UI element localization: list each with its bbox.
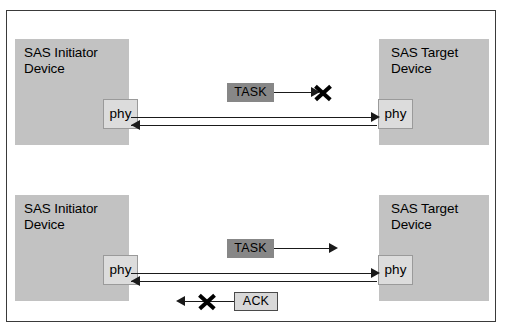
target-phy-bottom: phy [378, 255, 413, 285]
figure-canvas: SAS Initiator Device phy SAS Target Devi… [0, 0, 506, 334]
sas-target-device-label: SAS Target Device [391, 45, 458, 77]
link-line-right-top [131, 117, 377, 118]
link-arrowhead-right-bottom [371, 268, 380, 278]
link-arrowhead-left-top [131, 120, 140, 130]
blocked-x-icon-bottom [197, 291, 217, 311]
sas-initiator-device-top: SAS Initiator Device [15, 39, 129, 145]
sas-target-device-label: SAS Target Device [391, 201, 458, 233]
task-arrow-line-bottom [274, 248, 334, 249]
caption-remnant [120, 0, 380, 6]
blocked-x-icon-top [313, 82, 333, 102]
panel-top: SAS Initiator Device phy SAS Target Devi… [7, 11, 495, 167]
figure-frame: SAS Initiator Device phy SAS Target Devi… [6, 10, 496, 322]
sas-initiator-device-label: SAS Initiator Device [24, 201, 98, 233]
panel-bottom: SAS Initiator Device phy SAS Target Devi… [7, 167, 495, 323]
sas-initiator-device-bottom: SAS Initiator Device [15, 195, 129, 301]
target-phy-top: phy [378, 99, 413, 129]
link-arrowhead-right-top [371, 112, 380, 122]
sas-target-device-top: SAS Target Device [379, 39, 489, 145]
ack-message-box-bottom: ACK [234, 292, 278, 311]
sas-target-device-bottom: SAS Target Device [379, 195, 489, 301]
sas-initiator-device-label: SAS Initiator Device [24, 45, 98, 77]
link-line-left-top [131, 125, 377, 126]
task-arrowhead-bottom [329, 243, 338, 253]
task-message-box-bottom: TASK [227, 239, 274, 258]
task-message-box-top: TASK [227, 83, 274, 102]
link-line-right-bottom [131, 273, 377, 274]
ack-arrowhead-bottom [176, 296, 185, 306]
link-line-left-bottom [131, 281, 377, 282]
link-arrowhead-left-bottom [131, 276, 140, 286]
